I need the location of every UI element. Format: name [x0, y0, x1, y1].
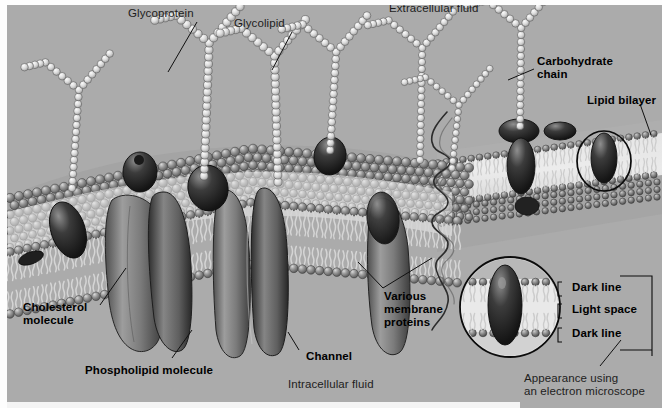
label-em-caption: Appearance using an electron microscope: [524, 372, 645, 398]
label-carbohydrate-chain: Carbohydrate chain: [537, 55, 613, 81]
label-cholesterol-molecule: Cholesterol molecule: [23, 301, 87, 327]
em-inset-brackets: [556, 262, 662, 372]
frame-bottom-edge: [0, 402, 520, 408]
membrane-diagram-figure: Glycoprotein Glycolipid Extracellular fl…: [0, 0, 662, 408]
label-channel: Channel: [306, 350, 352, 363]
label-glycolipid: Glycolipid: [234, 17, 285, 30]
frame-top-edge: [0, 0, 662, 5]
label-lipid-bilayer: Lipid bilayer: [587, 94, 656, 107]
frame-left-edge: [0, 0, 7, 408]
label-phospholipid-molecule: Phospholipid molecule: [85, 364, 213, 377]
label-various-membrane-proteins: Various membrane proteins: [384, 290, 443, 329]
label-glycoprotein: Glycoprotein: [128, 7, 194, 20]
label-intracellular-fluid: Intracellular fluid: [288, 378, 374, 391]
